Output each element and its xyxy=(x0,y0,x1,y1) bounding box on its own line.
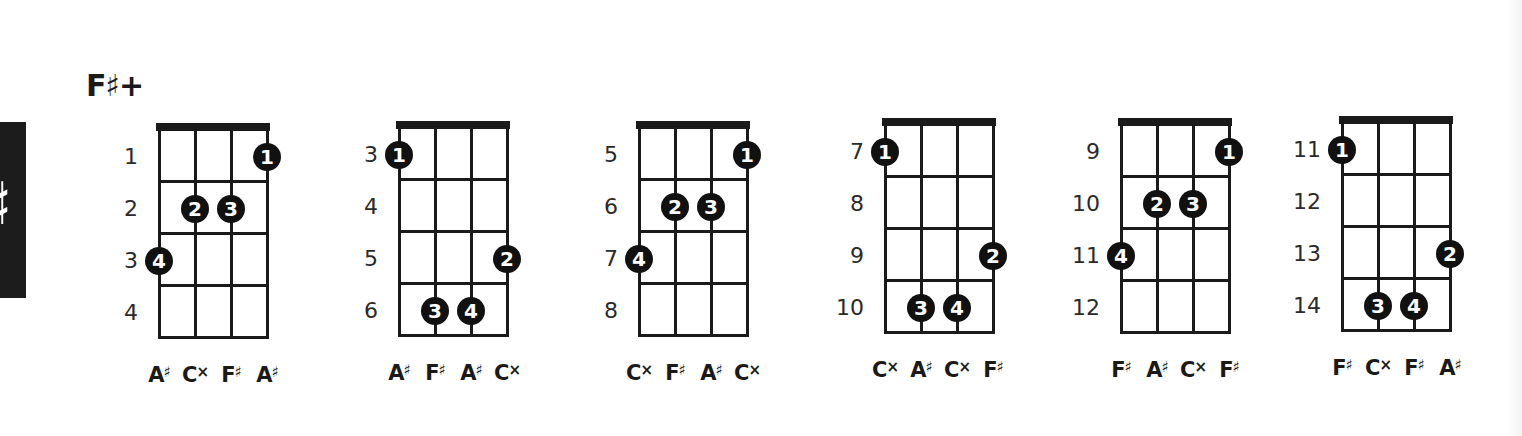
note-letter: A xyxy=(148,363,163,387)
fret-number: 11 xyxy=(1281,138,1321,162)
fret-line xyxy=(1341,277,1452,280)
string-line xyxy=(1156,118,1159,334)
note-letter: F xyxy=(425,361,438,385)
chord-diagram: 56781234C×F♯A♯C× xyxy=(638,121,818,401)
chord-title: F♯+ xyxy=(86,66,143,106)
fret-number: 8 xyxy=(824,192,864,216)
fret-number: 5 xyxy=(578,143,618,167)
finger-dot: 1 xyxy=(1215,138,1243,166)
fret-line xyxy=(638,282,749,285)
note-letter: A xyxy=(1439,356,1454,380)
finger-dot: 4 xyxy=(625,245,653,273)
fret-number: 12 xyxy=(1060,296,1100,320)
note-letter: A xyxy=(910,358,925,382)
fret-line xyxy=(398,334,509,337)
string-line xyxy=(506,121,509,337)
note-label: A♯ xyxy=(1139,354,1175,383)
note-letter: F xyxy=(983,358,996,382)
nut xyxy=(396,121,510,129)
finger-dot: 3 xyxy=(1364,292,1392,320)
fret-number: 4 xyxy=(98,301,138,325)
finger-dot: 4 xyxy=(943,294,971,322)
note-label: C× xyxy=(1360,352,1396,381)
note-label: A♯ xyxy=(141,359,177,388)
note-label: C× xyxy=(729,357,765,386)
fret-number: 9 xyxy=(1060,140,1100,164)
string-line xyxy=(992,118,995,334)
finger-dot: 3 xyxy=(421,297,449,325)
chord-diagram: 111213141234F♯C×F♯A♯ xyxy=(1341,116,1521,396)
fret-number: 10 xyxy=(1060,192,1100,216)
fret-number: 13 xyxy=(1281,242,1321,266)
finger-dot: 1 xyxy=(1328,136,1356,164)
note-letter: C xyxy=(1365,356,1379,380)
finger-dot: 1 xyxy=(733,141,761,169)
note-label: C× xyxy=(939,354,975,383)
finger-dot: 3 xyxy=(697,193,725,221)
note-letter: F xyxy=(1332,356,1345,380)
sharp-icon: ♯ xyxy=(404,361,410,379)
fret-line xyxy=(638,334,749,337)
fret-number: 4 xyxy=(338,195,378,219)
fret-line xyxy=(158,284,269,287)
note-letter: F xyxy=(1219,358,1232,382)
finger-dot: 4 xyxy=(145,247,173,275)
string-line xyxy=(1192,118,1195,334)
fret-line xyxy=(158,180,269,183)
double-sharp-icon: × xyxy=(748,361,760,379)
double-sharp-icon: × xyxy=(886,358,898,376)
string-line xyxy=(710,121,713,337)
note-label: F♯ xyxy=(213,359,249,388)
note-letter: C xyxy=(872,358,886,382)
note-label: F♯ xyxy=(975,354,1011,383)
double-sharp-icon: × xyxy=(508,361,520,379)
note-label: F♯ xyxy=(417,357,453,386)
string-line xyxy=(1120,118,1123,334)
note-letter: C xyxy=(1180,358,1194,382)
fret-number: 1 xyxy=(98,145,138,169)
chord-diagram: 34561234A♯F♯A♯C× xyxy=(398,121,578,401)
fret-line xyxy=(158,336,269,339)
fret-line xyxy=(638,178,749,181)
double-sharp-icon: × xyxy=(958,358,970,376)
note-letter: A xyxy=(256,363,271,387)
note-letter: A xyxy=(460,361,475,385)
finger-dot: 2 xyxy=(661,193,689,221)
finger-dot: 4 xyxy=(1400,292,1428,320)
nut xyxy=(1118,118,1232,126)
fret-line xyxy=(398,230,509,233)
note-letter: F xyxy=(1111,358,1124,382)
nut xyxy=(156,123,270,131)
note-letter: C xyxy=(626,361,640,385)
fret-number: 2 xyxy=(98,197,138,221)
fret-line xyxy=(398,178,509,181)
fret-line xyxy=(884,331,995,334)
note-label: F♯ xyxy=(657,357,693,386)
fret-number: 7 xyxy=(824,140,864,164)
note-label: F♯ xyxy=(1103,354,1139,383)
finger-dot: 3 xyxy=(217,195,245,223)
double-sharp-icon: × xyxy=(196,363,208,381)
finger-dot: 4 xyxy=(457,297,485,325)
note-label: A♯ xyxy=(903,354,939,383)
fret-line xyxy=(1341,173,1452,176)
note-letter: A xyxy=(388,361,403,385)
note-letter: F xyxy=(665,361,678,385)
fret-line xyxy=(1120,227,1231,230)
fret-number: 14 xyxy=(1281,294,1321,318)
fret-line xyxy=(398,282,509,285)
note-label: A♯ xyxy=(453,357,489,386)
sharp-icon: ♯ xyxy=(1162,358,1168,376)
note-label: C× xyxy=(177,359,213,388)
fret-line xyxy=(884,175,995,178)
finger-dot: 2 xyxy=(979,242,1007,270)
section-tab: ♯ xyxy=(0,122,26,298)
fret-number: 6 xyxy=(338,299,378,323)
finger-dot: 3 xyxy=(907,294,935,322)
sharp-icon: ♯ xyxy=(272,363,278,381)
sharp-icon: ♯ xyxy=(476,361,482,379)
sharp-icon: ♯ xyxy=(439,361,445,379)
fret-line xyxy=(884,227,995,230)
nut xyxy=(882,118,996,126)
fret-number: 10 xyxy=(824,296,864,320)
